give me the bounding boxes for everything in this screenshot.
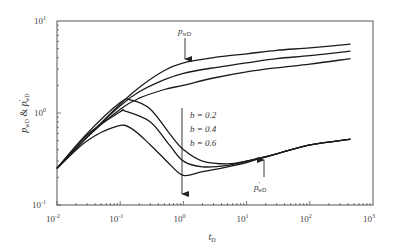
log-log-chart: 10-210-1100101102103 10-1100101 tD pwD &…: [0, 0, 393, 250]
y-tick-label: 100: [34, 107, 46, 118]
pressure-curve: [57, 44, 351, 168]
y-tick-labels: 10-1100101: [32, 15, 46, 210]
x-tick-label: 10-1: [109, 213, 123, 224]
annotation-dpwd: p'wD: [253, 180, 267, 193]
x-tick-labels: 10-210-1100101102103: [46, 213, 375, 224]
annotation-pwd: pwD: [177, 26, 192, 37]
y-axis-label: pwD & p'wD: [17, 93, 30, 134]
y-tick-label: 10-1: [32, 199, 46, 210]
y-tick-label: 101: [34, 15, 46, 26]
x-tick-label: 101: [237, 213, 249, 224]
x-tick-label: 100: [173, 213, 185, 224]
annotation-b-0-2: b = 0.2: [190, 110, 217, 120]
x-axis-label: tD: [208, 231, 216, 243]
annotation-b-0-4: b = 0.4: [190, 124, 217, 134]
x-tick-label: 102: [300, 213, 312, 224]
annotation-b-0-6: b = 0.6: [190, 138, 217, 148]
x-tick-label: 10-2: [46, 213, 60, 224]
x-tick-label: 103: [363, 213, 375, 224]
